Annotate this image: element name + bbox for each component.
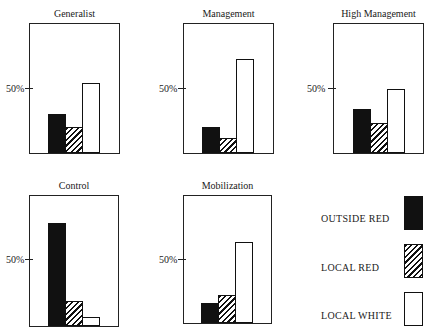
- bar-local-red: [370, 123, 388, 153]
- tick-label-50: 50%: [307, 84, 325, 94]
- bar-local-red: [218, 295, 236, 323]
- bar-outside-red: [353, 109, 371, 153]
- bar-outside-red: [201, 303, 219, 323]
- panel-title: High Management: [333, 8, 424, 20]
- plot-frame: [333, 23, 424, 154]
- legend-label-local-white: LOCAL WHITE: [321, 310, 392, 321]
- legend-label-local-red: LOCAL RED: [321, 262, 379, 273]
- legend-swatch-outside-red: [404, 196, 423, 230]
- tick-label-50: 50%: [159, 255, 177, 265]
- bar-local-white: [387, 89, 405, 154]
- bar-local-white: [235, 242, 253, 323]
- legend-swatch-local-white: [404, 292, 423, 326]
- panel-mobilization: Mobilization 50%: [0, 0, 290, 331]
- legend-swatch-local-red: [404, 244, 423, 278]
- panel-title: Mobilization: [183, 180, 272, 192]
- plot-frame: [183, 195, 272, 324]
- legend-label-outside-red: OUTSIDE RED: [321, 213, 390, 224]
